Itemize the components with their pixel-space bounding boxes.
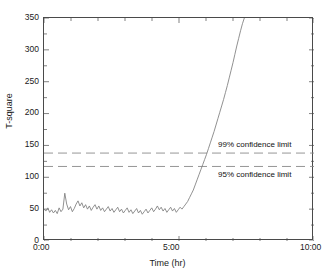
y-axis-tick-label: 250 [25,77,39,86]
y-axis-tick-label: 300 [25,45,39,54]
x-axis-tick-label: 5:00 [163,243,180,252]
y-axis-tick-label: 200 [25,108,39,117]
y-axis-tick-label: 100 [25,172,39,181]
x-axis-tick-label: 10:00 [300,243,321,252]
reference-lines [44,153,314,166]
y-axis-tick-label: 150 [25,140,39,149]
x-axis-tick-label: 0:00 [33,243,50,252]
tsquare-chart-figure: 350 300 250 200 150 100 50 0 0:00 5:00 1… [0,0,335,276]
x-axis-title: Time (hr) [0,258,335,268]
y-axis-tick-label: 350 [25,13,39,22]
plot-area [43,17,313,240]
data-series [44,18,244,214]
y-axis-tick-label: 50 [30,204,39,213]
plot-canvas [44,18,314,241]
annotation-99-confidence-limit: 99% confidence limit [218,140,291,149]
axis-tick-marks [44,18,314,241]
annotation-95-confidence-limit: 95% confidence limit [218,170,291,179]
y-axis-title: T-square [4,81,14,141]
